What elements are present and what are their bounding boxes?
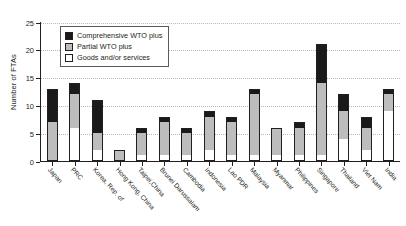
legend-label: Partial WTO plus <box>77 42 132 51</box>
stacked-bar <box>181 128 192 161</box>
bar-slot <box>243 22 265 161</box>
bar-segment-comprehensive <box>361 117 372 128</box>
stacked-bar <box>226 117 237 161</box>
bar-segment-goods <box>204 150 215 161</box>
bar-segment-comprehensive <box>92 100 103 133</box>
x-label-slot: Taipei,China <box>131 164 153 226</box>
x-label-slot: Myanmar <box>265 164 287 226</box>
stacked-bar <box>92 100 103 161</box>
y-tick-label: 25 <box>26 18 34 27</box>
stacked-bar <box>271 128 282 161</box>
y-tick-label: 10 <box>26 101 34 110</box>
bar-segment-partial <box>316 83 327 155</box>
x-label-slot: Cambodia <box>176 164 198 226</box>
bar-segment-goods <box>294 155 305 161</box>
x-label-slot: Japan <box>41 164 63 226</box>
stacked-bar <box>159 117 170 161</box>
x-label-slot: Hong Kong, China <box>108 164 130 226</box>
bar-slot <box>221 22 243 161</box>
y-tick <box>36 106 40 107</box>
bar-segment-goods <box>181 155 192 161</box>
bar-segment-partial <box>361 128 372 150</box>
bar-segment-partial <box>159 122 170 155</box>
bar-segment-partial <box>181 133 192 155</box>
bar-segment-comprehensive <box>69 83 80 94</box>
bar-segment-goods <box>338 139 349 161</box>
bar-segment-goods <box>316 155 327 161</box>
y-tick-label: 5 <box>30 129 34 138</box>
legend-label: Goods and/or services <box>77 53 150 62</box>
x-label-slot: Lao PDR <box>221 164 243 226</box>
bar-segment-comprehensive <box>47 89 58 122</box>
bar-slot <box>333 22 355 161</box>
chart-legend: Comprehensive WTO plus Partial WTO plus … <box>60 26 169 67</box>
x-tick-label: PRC <box>69 166 84 181</box>
bar-slot <box>288 22 310 161</box>
y-tick-label: 15 <box>26 74 34 83</box>
bar-segment-partial <box>271 128 282 156</box>
x-label-slot: Korea, Rep. of <box>86 164 108 226</box>
x-label-slot: Malaysia <box>243 164 265 226</box>
bar-segment-partial <box>383 94 394 111</box>
bar-segment-partial <box>249 94 260 155</box>
stacked-bar <box>114 150 125 161</box>
stacked-bar <box>69 83 80 161</box>
y-tick <box>36 78 40 79</box>
legend-swatch-partial-icon <box>65 43 73 51</box>
x-tick-label: India <box>384 166 399 181</box>
bar-segment-partial <box>114 150 125 161</box>
x-label-slot: India <box>378 164 400 226</box>
bar-slot <box>355 22 377 161</box>
bar-segment-partial <box>136 133 147 155</box>
bar-segment-partial <box>226 122 237 155</box>
bar-segment-goods <box>136 155 147 161</box>
y-tick <box>36 162 40 163</box>
bar-segment-goods <box>361 150 372 161</box>
bar-segment-goods <box>69 128 80 161</box>
stacked-bar <box>383 89 394 161</box>
bar-segment-partial <box>47 122 58 161</box>
stacked-bar <box>204 111 215 161</box>
legend-item: Comprehensive WTO plus <box>65 30 162 41</box>
stacked-bar <box>47 89 58 161</box>
bar-segment-partial <box>294 128 305 156</box>
x-label-slot: Philippines <box>288 164 310 226</box>
y-tick <box>36 50 40 51</box>
stacked-bar <box>136 128 147 161</box>
x-label-slot: Indonesia <box>198 164 220 226</box>
bar-segment-goods <box>226 155 237 161</box>
legend-swatch-comprehensive-icon <box>65 32 73 40</box>
bar-segment-goods <box>249 155 260 161</box>
bar-segment-partial <box>92 133 103 150</box>
stacked-bar <box>294 122 305 161</box>
legend-swatch-goods-icon <box>65 54 73 62</box>
bar-slot <box>198 22 220 161</box>
y-tick <box>36 134 40 135</box>
bar-segment-comprehensive <box>338 94 349 111</box>
x-label-slot: Singapore <box>310 164 332 226</box>
bar-chart: Number of FTAs 0510152025 JapanPRCKorea,… <box>0 0 406 226</box>
bar-segment-partial <box>204 117 215 150</box>
bar-slot <box>310 22 332 161</box>
y-tick-label: 0 <box>30 157 34 166</box>
legend-label: Comprehensive WTO plus <box>77 31 162 40</box>
bar-segment-goods <box>92 150 103 161</box>
bar-slot <box>378 22 400 161</box>
legend-item: Partial WTO plus <box>65 41 162 52</box>
bar-segment-partial <box>338 111 349 139</box>
x-tick-label: Japan <box>47 166 64 184</box>
stacked-bar <box>316 44 327 161</box>
x-label-slot: PRC <box>63 164 85 226</box>
x-axis-labels: JapanPRCKorea, Rep. ofHong Kong, ChinaTa… <box>41 164 400 226</box>
legend-item: Goods and/or services <box>65 52 162 63</box>
x-label-slot: Brunei Darussalam <box>153 164 175 226</box>
bar-segment-goods <box>383 111 394 161</box>
y-axis-title: Number of FTAs <box>8 12 20 152</box>
bar-segment-goods <box>159 155 170 161</box>
stacked-bar <box>249 89 260 161</box>
bar-segment-goods <box>271 155 282 161</box>
y-tick <box>36 23 40 24</box>
bar-slot <box>176 22 198 161</box>
stacked-bar <box>338 94 349 161</box>
x-label-slot: Viet Nam <box>355 164 377 226</box>
